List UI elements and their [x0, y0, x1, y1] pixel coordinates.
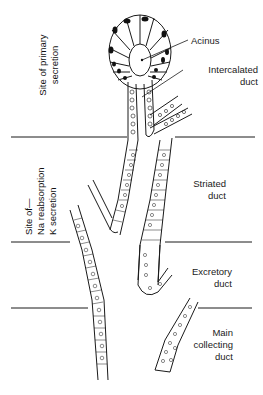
striated-cells — [74, 150, 170, 364]
label-main-collecting-duct: Main collecting duct — [180, 327, 233, 363]
label-na-reabsorption: Site of— Na reabsorption K secretion — [23, 145, 59, 235]
label-acinus: Acinus — [191, 35, 220, 47]
label-intercalated-duct: Intercalated duct — [170, 64, 258, 88]
label-striated-duct: Striated duct — [170, 178, 226, 202]
label-excretory-duct: Excretory duct — [170, 266, 232, 290]
excretory-duct-drawing — [138, 245, 172, 295]
label-primary-secretion: Site of primary secretion — [37, 20, 61, 110]
striated-duct-drawing — [70, 138, 172, 380]
acinus-drawing — [109, 15, 171, 89]
